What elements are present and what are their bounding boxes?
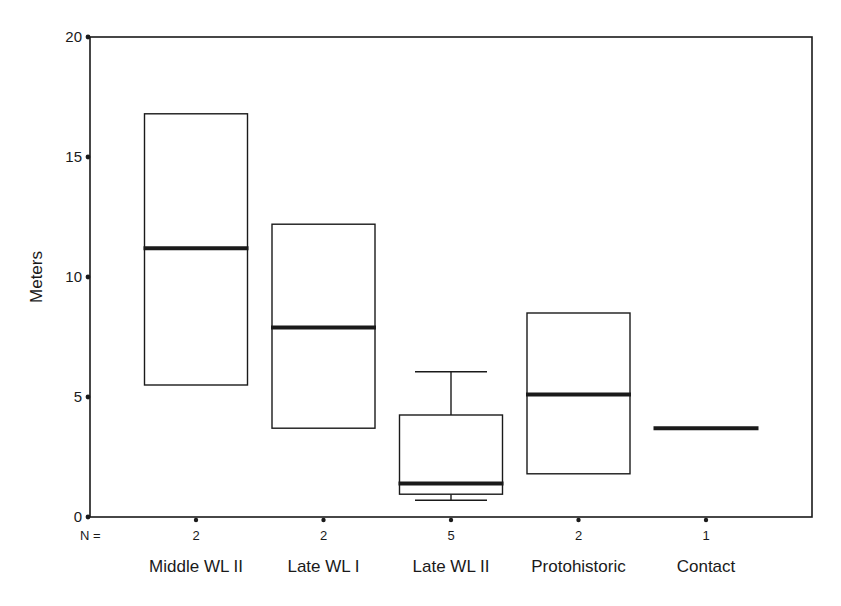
y-tick-mark — [86, 515, 91, 520]
y-tick-mark — [86, 395, 91, 400]
box-late-wl-i — [271, 224, 376, 428]
y-tick-mark — [86, 155, 91, 160]
box-plot-chart: 05101520 2Middle WL II2Late WL I5Late WL… — [0, 0, 841, 606]
x-tick-mark — [576, 518, 580, 522]
x-tick-mark — [194, 518, 198, 522]
n-count-label: 1 — [702, 528, 709, 543]
box-late-wl-ii — [399, 372, 504, 500]
y-tick-label: 5 — [74, 388, 82, 405]
x-tick-mark — [449, 518, 453, 522]
y-axis-title: Meters — [27, 251, 46, 303]
n-count-label: 5 — [447, 528, 454, 543]
n-count-label: 2 — [320, 528, 327, 543]
chart-canvas: 05101520 2Middle WL II2Late WL I5Late WL… — [0, 0, 841, 606]
y-tick-label: 20 — [65, 28, 82, 45]
n-count-label: 2 — [192, 528, 199, 543]
category-label: Late WL I — [287, 557, 359, 576]
box-middle-wl-ii — [144, 114, 249, 385]
box-protohistoric — [526, 313, 631, 474]
y-tick-mark — [86, 275, 91, 280]
y-tick-mark — [86, 35, 91, 40]
y-tick-label: 10 — [65, 268, 82, 285]
category-label: Protohistoric — [531, 557, 626, 576]
n-count-label: 2 — [575, 528, 582, 543]
y-tick-label: 15 — [65, 148, 82, 165]
x-axis: 2Middle WL II2Late WL I5Late WL II2Proto… — [149, 518, 735, 576]
category-label: Contact — [677, 557, 736, 576]
x-tick-mark — [704, 518, 708, 522]
x-tick-mark — [321, 518, 325, 522]
n-prefix-label: N = — [80, 528, 101, 543]
box-series — [144, 114, 759, 500]
y-tick-label: 0 — [74, 508, 82, 525]
category-label: Late WL II — [413, 557, 490, 576]
category-label: Middle WL II — [149, 557, 243, 576]
y-axis: 05101520 — [65, 28, 90, 525]
